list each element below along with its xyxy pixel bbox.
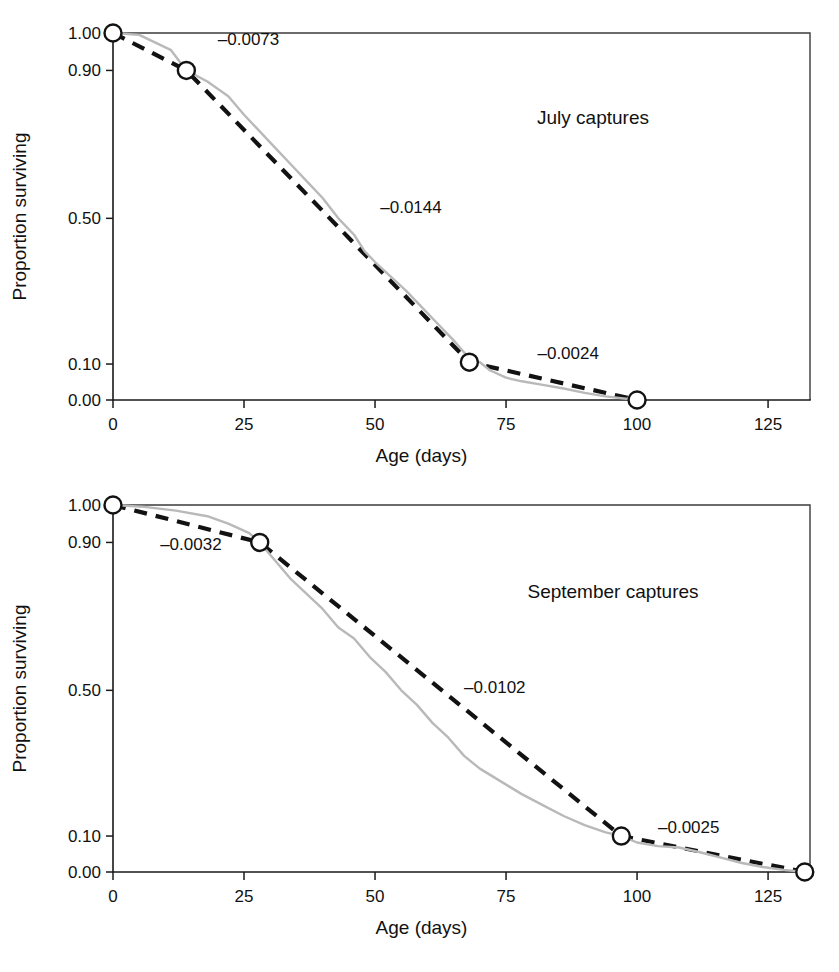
y-tick-label-july-3: 0.10 (68, 355, 101, 374)
x-tick-label-september-3: 75 (497, 887, 516, 906)
y-tick-label-july-0: 1.00 (68, 24, 101, 43)
y-tick-label-july-1: 0.90 (68, 61, 101, 80)
y-tick-label-september-0: 1.00 (68, 496, 101, 515)
y-tick-label-september-4: 0.00 (68, 863, 101, 882)
survival-figure: 1.000.900.500.100.000255075100125Age (da… (0, 0, 839, 972)
x-tick-label-july-3: 75 (497, 415, 516, 434)
y-tick-label-september-1: 0.90 (68, 533, 101, 552)
x-tick-label-july-4: 100 (623, 415, 651, 434)
y-axis-title-september: Proportion surviving (9, 605, 30, 773)
x-tick-label-july-2: 50 (366, 415, 385, 434)
data-marker-september-1 (251, 534, 268, 551)
y-tick-label-july-2: 0.50 (68, 209, 101, 228)
slope-annotation-july-0: –0.0073 (218, 30, 279, 49)
x-axis-title-september: Age (days) (376, 917, 468, 938)
chart-svg-september: 1.000.900.500.100.000255075100125Age (da… (0, 470, 839, 972)
data-marker-september-3 (796, 864, 813, 881)
data-marker-july-2 (461, 354, 478, 371)
data-marker-september-2 (613, 828, 630, 845)
data-marker-july-1 (178, 62, 195, 79)
chart-panel-september: 1.000.900.500.100.000255075100125Age (da… (0, 470, 839, 972)
slope-annotation-july-1: –0.0144 (380, 198, 441, 217)
slope-annotation-september-1: –0.0102 (464, 678, 525, 697)
y-tick-label-september-2: 0.50 (68, 681, 101, 700)
x-tick-label-september-4: 100 (623, 887, 651, 906)
slope-annotation-july-2: –0.0024 (537, 344, 598, 363)
chart-panel-july: 1.000.900.500.100.000255075100125Age (da… (0, 0, 839, 470)
slope-annotation-september-0: –0.0032 (160, 535, 221, 554)
data-marker-september-0 (105, 497, 122, 514)
x-tick-label-july-0: 0 (108, 415, 117, 434)
panel-label-september: September captures (527, 581, 698, 602)
y-axis-title-july: Proportion surviving (9, 133, 30, 301)
x-tick-label-september-0: 0 (108, 887, 117, 906)
chart-svg-july: 1.000.900.500.100.000255075100125Age (da… (0, 0, 839, 470)
data-marker-july-0 (105, 25, 122, 42)
panel-label-july: July captures (537, 107, 649, 128)
x-tick-label-july-5: 125 (754, 415, 782, 434)
slope-annotation-september-2: –0.0025 (658, 818, 719, 837)
x-tick-label-september-5: 125 (754, 887, 782, 906)
x-tick-label-september-1: 25 (235, 887, 254, 906)
x-tick-label-september-2: 50 (366, 887, 385, 906)
x-tick-label-july-1: 25 (235, 415, 254, 434)
y-tick-label-september-3: 0.10 (68, 827, 101, 846)
data-marker-july-3 (629, 392, 646, 409)
y-tick-label-july-4: 0.00 (68, 391, 101, 410)
x-axis-title-july: Age (days) (376, 445, 468, 466)
